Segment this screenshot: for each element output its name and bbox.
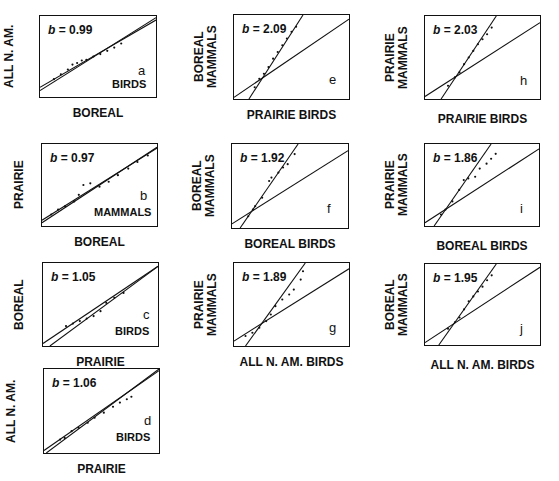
data-point (106, 50, 108, 52)
data-point (481, 286, 483, 288)
y-axis-label: BOREAL (13, 262, 26, 347)
data-point (105, 302, 107, 304)
slope-value: = 2.09 (249, 22, 286, 36)
data-point (268, 180, 270, 182)
slope-value: = 1.89 (249, 270, 286, 284)
panel-letter: j (520, 321, 523, 336)
data-point (474, 176, 476, 178)
plot-area: b = 0.97bMAMMALS (41, 143, 158, 227)
data-point (491, 27, 493, 29)
slope-value: = 1.86 (440, 151, 477, 165)
y-axis-label: PRAIRIE (13, 143, 26, 227)
slope-value: = 0.99 (55, 23, 92, 37)
data-point (67, 68, 69, 70)
plot-area: b = 1.95j (424, 263, 541, 346)
data-point (73, 200, 75, 202)
data-point (479, 168, 481, 170)
data-point (252, 208, 254, 210)
taxon-label: MAMMALS (94, 206, 151, 218)
plot-area: b = 1.05cBIRDS (42, 262, 159, 347)
slope-label: b = 1.86 (433, 151, 477, 165)
data-point (451, 200, 453, 202)
data-point (495, 153, 497, 155)
data-point (444, 209, 446, 211)
data-point (251, 332, 253, 334)
data-point (86, 318, 88, 320)
data-point (92, 55, 94, 57)
data-point (78, 194, 80, 196)
x-axis-label: PRAIRIE BIRDS (233, 108, 350, 122)
data-point (263, 73, 265, 75)
data-point (295, 26, 297, 28)
y-axis-label: PRAIRIE MAMMALS (384, 15, 412, 100)
data-point (472, 295, 474, 297)
data-point (458, 316, 460, 318)
panel-letter: c (143, 307, 150, 322)
panel-letter: b (140, 188, 147, 203)
data-point (85, 59, 87, 61)
data-point (282, 166, 284, 168)
data-point (64, 437, 66, 439)
data-point (290, 31, 292, 33)
data-point (454, 76, 456, 78)
panel-letter: a (138, 63, 145, 78)
plot-area: b = 2.09e (233, 14, 350, 100)
data-point (81, 59, 83, 61)
data-point (254, 86, 256, 88)
slope-value: = 1.06 (59, 376, 96, 390)
data-point (440, 213, 442, 215)
data-point (71, 64, 73, 66)
panel-letter: h (520, 73, 527, 88)
slope-label: b = 1.05 (51, 270, 95, 284)
panel-letter: e (329, 72, 336, 87)
slope-label: b = 1.95 (433, 271, 477, 285)
data-point (447, 328, 449, 330)
x-axis-label: BOREAL (39, 106, 157, 120)
data-point (60, 73, 62, 75)
data-point (113, 297, 115, 299)
data-point (108, 181, 110, 183)
data-point (274, 305, 276, 307)
slope-value: = 0.97 (57, 151, 94, 165)
data-point (76, 62, 78, 64)
data-point (120, 42, 122, 44)
data-point (463, 63, 465, 65)
data-point (50, 213, 52, 215)
data-point (258, 327, 260, 329)
data-point (82, 184, 84, 186)
slope-label: b = 2.09 (242, 22, 286, 36)
data-point (119, 402, 121, 404)
slope-label: b = 0.99 (48, 23, 92, 37)
data-point (65, 325, 67, 327)
slope-label: b = 0.97 (50, 151, 94, 165)
data-point (122, 292, 124, 294)
data-point (87, 422, 89, 424)
data-point (53, 78, 55, 80)
data-point (270, 313, 272, 315)
data-point (454, 321, 456, 323)
data-point (127, 168, 129, 170)
data-point (277, 51, 279, 53)
data-point (59, 438, 61, 440)
data-point (272, 58, 274, 60)
data-point (64, 205, 66, 207)
data-point (477, 43, 479, 45)
panel-letter: d (144, 413, 151, 428)
plot-area: b = 1.92f (231, 143, 349, 229)
data-point (113, 47, 115, 49)
x-axis-label: ALL N. AM. BIRDS (233, 355, 350, 369)
data-point (447, 85, 449, 87)
data-point (468, 300, 470, 302)
data-point (468, 56, 470, 58)
data-point (491, 274, 493, 276)
y-axis-label: PRAIRIE MAMMALS (193, 262, 221, 347)
data-point (77, 427, 79, 429)
data-point (281, 298, 283, 300)
data-point (286, 37, 288, 39)
panel-letter: f (327, 201, 331, 216)
slope-label: b = 2.03 (433, 23, 477, 37)
data-point (126, 398, 128, 400)
data-point (265, 320, 267, 322)
data-point (472, 50, 474, 52)
data-point (458, 189, 460, 191)
